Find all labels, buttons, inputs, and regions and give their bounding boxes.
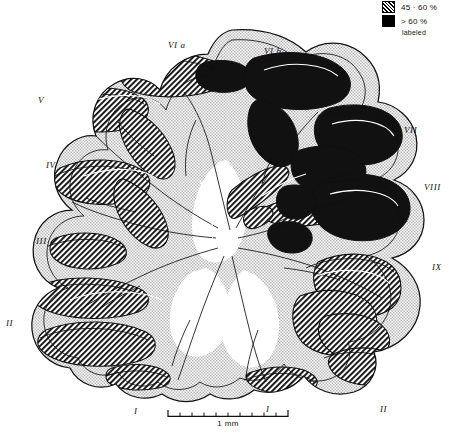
lobule-label-ii: II <box>6 318 13 328</box>
cerebellum-section-drawing <box>0 0 460 440</box>
legend: 45 · 60 % > 60 % labeled <box>382 1 458 36</box>
lobule-label-i-left: I <box>134 406 138 416</box>
legend-note: labeled <box>402 29 458 36</box>
hatched-swatch-icon <box>382 1 395 13</box>
scale-bar-caption: 1 mm <box>166 419 290 428</box>
solid-black-swatch-icon <box>382 15 395 27</box>
figure-root: 45 · 60 % > 60 % labeled VI a VI b V VII… <box>0 0 460 440</box>
scale-bar-graphic <box>166 408 290 418</box>
lobule-label-v: V <box>38 95 44 105</box>
legend-entry-45-60: 45 · 60 % <box>382 1 458 13</box>
lobule-label-ii-bottom-right: II <box>380 404 387 414</box>
legend-label-over-60: > 60 % <box>401 17 427 26</box>
lobule-label-vii: VII <box>404 125 417 135</box>
lobule-label-iv: IV <box>46 160 56 170</box>
lobule-label-ix: IX <box>432 262 442 272</box>
legend-entry-over-60: > 60 % <box>382 15 458 27</box>
lobule-label-vi-b: VI b <box>264 46 282 56</box>
lobule-label-viii: VIII <box>424 182 441 192</box>
scale-bar: 1 mm <box>166 408 290 428</box>
legend-label-45-60: 45 · 60 % <box>401 3 437 12</box>
lobule-label-iii: III <box>36 236 47 246</box>
lobule-label-vi-a: VI a <box>168 40 186 50</box>
